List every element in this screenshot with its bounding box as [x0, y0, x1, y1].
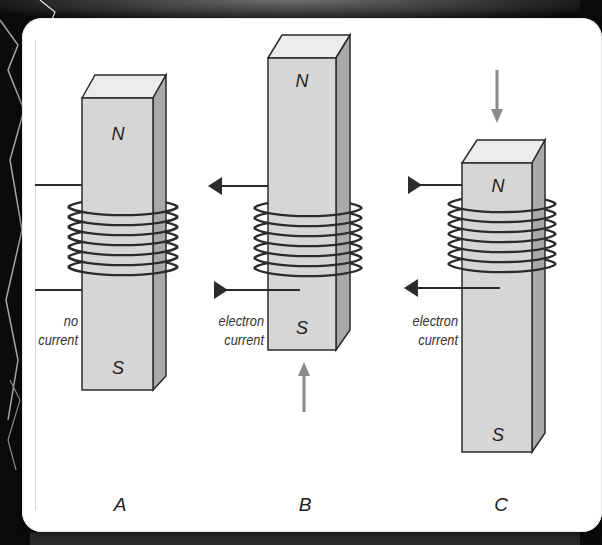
- magnet-front-face: [462, 163, 532, 452]
- caption-line: no: [27, 312, 78, 331]
- magnet-front-face: [268, 58, 336, 350]
- panel-b-north-label: N: [292, 71, 312, 92]
- panel-a-caption: no current: [27, 312, 78, 350]
- magnet-side-face: [532, 140, 545, 452]
- current-out-arrow-icon: [208, 177, 222, 195]
- panel-b-south-label: S: [292, 318, 312, 339]
- magnet-top-face: [462, 140, 545, 163]
- panel-b: [208, 35, 362, 412]
- motion-up-arrowhead-icon: [298, 362, 310, 376]
- panel-a-south-label: S: [108, 358, 128, 379]
- panel-c: [404, 70, 556, 452]
- caption-line: electron: [204, 312, 264, 331]
- caption-line: current: [27, 331, 78, 350]
- panel-c-south-label: S: [488, 425, 508, 446]
- panel-b-label: B: [293, 494, 317, 516]
- panel-c-label: C: [489, 494, 513, 516]
- magnet-side-face: [336, 35, 350, 350]
- magnet-top-face: [82, 75, 166, 98]
- caption-line: electron: [398, 312, 458, 331]
- panel-a-north-label: N: [108, 124, 128, 145]
- caption-line: current: [398, 331, 458, 350]
- panel-b-caption: electron current: [204, 312, 264, 350]
- current-in-arrow-icon: [214, 281, 228, 299]
- current-out-arrow-icon: [404, 279, 418, 297]
- panel-c-caption: electron current: [398, 312, 458, 350]
- current-in-arrow-icon: [408, 176, 422, 194]
- caption-line: current: [204, 331, 264, 350]
- motion-down-arrowhead-icon: [491, 109, 503, 123]
- panel-c-north-label: N: [488, 176, 508, 197]
- panel-a-label: A: [108, 494, 132, 516]
